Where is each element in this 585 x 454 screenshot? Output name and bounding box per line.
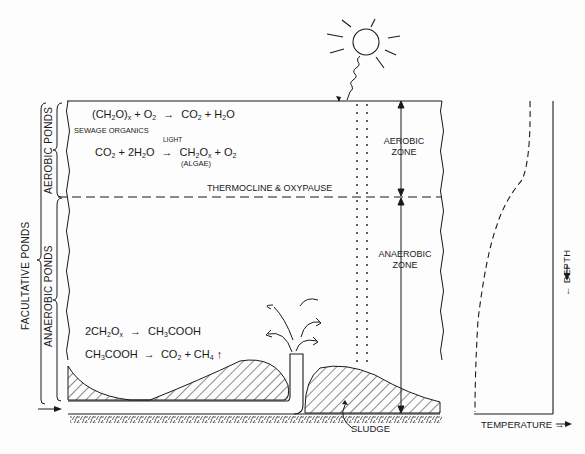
- pond-left-wall: [67, 101, 70, 360]
- diagram-graphics: [0, 0, 585, 454]
- sun-icon: [327, 19, 400, 68]
- pond-right-wall: [441, 101, 444, 360]
- reaction-arrow: →: [163, 108, 174, 120]
- equation-methane-formation: CH3COOH → CO2 + CH4 ↑: [85, 349, 222, 361]
- temperature-curve: [475, 101, 530, 412]
- gas-bubbles-arrows: [266, 299, 321, 352]
- label-temperature: TEMPERATURE →: [481, 420, 564, 430]
- label-aerobic-ponds: AEROBIC PONDS: [44, 107, 54, 194]
- label-anaerobic-zone: ANAEROBICZONE: [377, 250, 433, 270]
- label-depth: ← DEPTH: [562, 250, 572, 296]
- reaction-arrow: →: [162, 146, 173, 158]
- label-anaerobic-ponds: ANAEROBIC PONDS: [44, 245, 54, 347]
- label-sewage-organics: SEWAGE ORGANICS: [74, 127, 149, 135]
- sludge-mound-right: [305, 366, 440, 413]
- equation-oxidation: (CH2O)x + O2 → CO2 + H2O: [92, 109, 235, 121]
- light-ray: [347, 56, 360, 100]
- sludge-mound-left: [68, 360, 289, 400]
- equation-photosynthesis: CO2 + 2H2O → CH2Ox + O2: [95, 147, 236, 159]
- label-thermocline: THERMOCLINE & OXYPAUSE: [207, 184, 332, 193]
- label-aerobic-zone: AEROBICZONE: [382, 137, 426, 157]
- equation-acid-formation: 2CH2Ox → CH3COOH: [85, 326, 201, 338]
- reaction-arrow: →: [130, 325, 141, 337]
- reaction-arrow: →: [144, 348, 155, 360]
- label-sludge: SLUDGE: [351, 424, 390, 434]
- ground: [70, 416, 442, 423]
- label-light: LIGHT: [163, 137, 182, 144]
- label-facultative-ponds: FACULTATIVE PONDS: [21, 222, 31, 330]
- pond-diagram: FACULTATIVE PONDS AEROBIC PONDS ANAEROBI…: [0, 0, 585, 454]
- label-algae: (ALGAE): [181, 160, 211, 168]
